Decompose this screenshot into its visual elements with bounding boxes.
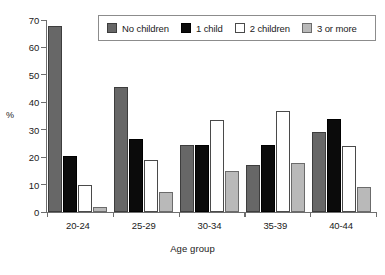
bar bbox=[261, 145, 275, 212]
x-axis-tick-mark bbox=[47, 212, 48, 217]
y-axis-tick-label: 40 bbox=[29, 97, 39, 108]
y-axis-tick-label: 20 bbox=[29, 152, 39, 163]
bar bbox=[291, 163, 305, 212]
x-axis-title: Age group bbox=[0, 243, 385, 254]
bar-group bbox=[244, 20, 310, 212]
legend-label: 3 or more bbox=[317, 23, 357, 34]
bar bbox=[48, 26, 62, 213]
x-axis-tick-mark bbox=[376, 212, 377, 217]
legend-item: 1 child bbox=[181, 23, 223, 34]
legend-swatch-icon bbox=[235, 23, 245, 33]
y-axis-title: % bbox=[6, 110, 14, 120]
legend-label: 1 child bbox=[196, 23, 223, 34]
bar bbox=[144, 160, 158, 212]
legend-label: 2 children bbox=[250, 23, 290, 34]
bar bbox=[93, 207, 107, 212]
bar bbox=[159, 192, 173, 212]
bar-group bbox=[113, 20, 179, 212]
x-axis-tick-label: 30-34 bbox=[198, 220, 222, 231]
bar bbox=[210, 120, 224, 212]
x-axis-tick-mark bbox=[244, 212, 245, 217]
bar-group bbox=[179, 20, 245, 212]
x-axis-line bbox=[46, 212, 376, 213]
x-axis-tick-mark bbox=[310, 212, 311, 217]
legend-label: No children bbox=[122, 23, 169, 34]
bar-group bbox=[310, 20, 376, 212]
x-axis-tick-label: 40-44 bbox=[329, 220, 353, 231]
legend-item: 3 or more bbox=[302, 23, 357, 34]
bar bbox=[276, 111, 290, 212]
bar bbox=[78, 185, 92, 212]
y-axis-tick-label: 60 bbox=[29, 42, 39, 53]
legend-item: No children bbox=[107, 23, 169, 34]
y-axis-tick-label: 10 bbox=[29, 179, 39, 190]
y-axis-tick-label: 0 bbox=[34, 207, 39, 218]
bar-group bbox=[47, 20, 113, 212]
bar bbox=[195, 145, 209, 212]
bar bbox=[180, 145, 194, 212]
y-axis-tick-label: 30 bbox=[29, 124, 39, 135]
bar bbox=[342, 146, 356, 212]
bar bbox=[63, 156, 77, 212]
bar bbox=[114, 87, 128, 212]
legend-item: 2 children bbox=[235, 23, 290, 34]
y-axis-tick-label: 50 bbox=[29, 69, 39, 80]
bar bbox=[225, 171, 239, 212]
x-axis-tick-label: 25-29 bbox=[132, 220, 156, 231]
bar bbox=[327, 119, 341, 212]
x-axis-tick-mark bbox=[179, 212, 180, 217]
x-axis-tick-mark bbox=[113, 212, 114, 217]
bar bbox=[129, 139, 143, 213]
x-axis-tick-label: 20-24 bbox=[66, 220, 90, 231]
x-axis-tick-label: 35-39 bbox=[263, 220, 287, 231]
bar bbox=[357, 187, 371, 212]
legend: No children1 child2 children3 or more bbox=[98, 15, 376, 41]
plot-area bbox=[47, 20, 376, 212]
bar bbox=[246, 165, 260, 212]
bar-chart: % 010203040506070 Age group No children1… bbox=[0, 0, 385, 275]
legend-swatch-icon bbox=[302, 23, 312, 33]
legend-swatch-icon bbox=[107, 23, 117, 33]
bar bbox=[312, 132, 326, 212]
y-axis: % 010203040506070 bbox=[0, 0, 46, 275]
y-axis-tick-label: 70 bbox=[29, 15, 39, 26]
legend-swatch-icon bbox=[181, 23, 191, 33]
